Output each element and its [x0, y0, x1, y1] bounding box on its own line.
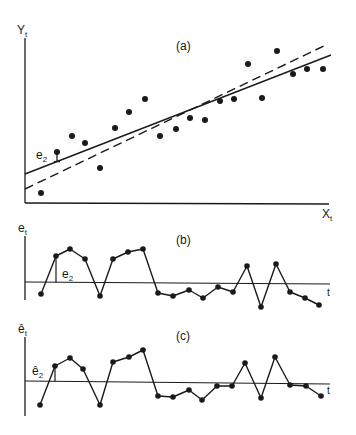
- data-point: [69, 133, 75, 139]
- data-point: [97, 165, 103, 171]
- residual-series: [38, 246, 322, 310]
- data-point: [67, 355, 73, 361]
- data-point: [80, 366, 86, 372]
- data-point: [125, 249, 131, 255]
- data-point: [110, 359, 116, 365]
- data-point: [287, 382, 293, 388]
- data-point: [273, 261, 279, 267]
- residual-label-c: ê2: [32, 364, 44, 380]
- x-axis-label-a: Xt: [322, 207, 333, 223]
- data-point: [302, 295, 308, 301]
- data-point: [304, 66, 310, 72]
- data-point: [187, 115, 193, 121]
- data-point: [126, 354, 132, 360]
- figure: (a) Yt Xt e2 (b) et t e2 (c) êt t ê2: [0, 0, 356, 435]
- series-line: [40, 350, 321, 405]
- data-point: [142, 96, 148, 102]
- data-point: [231, 96, 237, 102]
- data-point: [200, 295, 206, 301]
- data-point: [140, 347, 146, 353]
- data-point: [157, 133, 163, 139]
- panel-title-a: (a): [176, 39, 191, 53]
- residual-label-b: e2: [62, 267, 74, 283]
- data-point: [155, 393, 161, 399]
- data-point: [97, 293, 103, 299]
- chart-canvas: (a) Yt Xt e2 (b) et t e2 (c) êt t ê2: [0, 0, 356, 435]
- data-point: [258, 395, 264, 401]
- data-point: [82, 140, 88, 146]
- data-point: [214, 383, 220, 389]
- x-axis-label-b: t: [327, 287, 330, 298]
- data-point: [170, 394, 176, 400]
- data-point: [97, 402, 103, 408]
- scatter-points: [38, 48, 326, 196]
- data-point: [258, 304, 264, 310]
- data-point: [217, 98, 223, 104]
- panel-title-b: (b): [176, 233, 191, 247]
- estimated-residual-series: [37, 347, 324, 408]
- panel-b-residuals: (b) et t e2: [18, 221, 330, 310]
- data-point: [290, 71, 296, 77]
- data-point: [242, 360, 248, 366]
- data-point: [67, 246, 73, 252]
- data-point: [245, 61, 251, 67]
- y-axis-label-a: Yt: [17, 23, 28, 39]
- data-point: [186, 387, 192, 393]
- panel-title-c: (c): [176, 329, 190, 343]
- data-point: [126, 109, 132, 115]
- data-point: [215, 284, 221, 290]
- data-point: [173, 126, 179, 132]
- data-point: [320, 66, 326, 72]
- data-point: [274, 48, 280, 54]
- x-axis-label-c: t: [327, 385, 330, 396]
- y-axis-label-c: êt: [18, 322, 28, 338]
- data-point: [112, 125, 118, 131]
- data-point: [287, 289, 293, 295]
- data-point: [303, 383, 309, 389]
- data-point: [38, 190, 44, 196]
- data-point: [38, 291, 44, 297]
- data-point: [140, 246, 146, 252]
- data-point: [316, 302, 322, 308]
- data-point: [202, 117, 208, 123]
- panel-c-estimated-residuals: (c) êt t ê2: [18, 322, 330, 416]
- data-point: [186, 287, 192, 293]
- fitted-line-solid: [25, 55, 331, 174]
- true-line-dashed: [25, 44, 328, 189]
- data-point: [37, 402, 43, 408]
- data-point: [230, 289, 236, 295]
- data-point: [229, 383, 235, 389]
- data-point: [82, 256, 88, 262]
- x-axis: [25, 203, 329, 204]
- data-point: [170, 293, 176, 299]
- zero-line: [25, 381, 330, 384]
- data-point: [110, 256, 116, 262]
- data-point: [259, 95, 265, 101]
- regression-lines: [25, 44, 331, 189]
- data-point: [272, 354, 278, 360]
- data-point: [244, 263, 250, 269]
- y-axis-label-b: et: [18, 221, 28, 237]
- residual-label-e2: e2: [36, 148, 48, 164]
- data-point: [199, 397, 205, 403]
- data-point: [155, 290, 161, 296]
- panel-a-scatter: (a) Yt Xt e2: [17, 23, 333, 223]
- data-point: [318, 393, 324, 399]
